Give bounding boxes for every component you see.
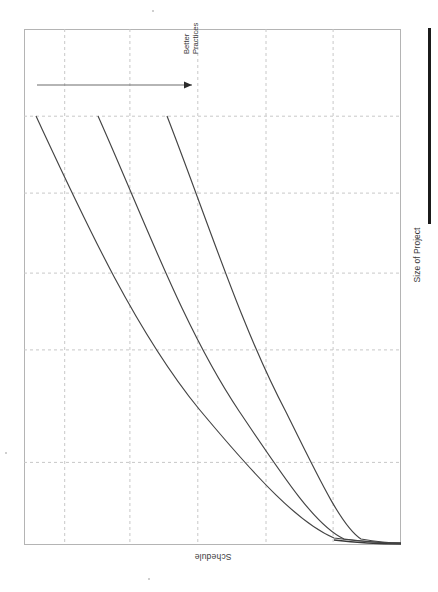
scan-artifact-speck [5,452,7,454]
annotation-line-1: Better [182,23,191,54]
annotation-better-practices-label: Better Practices [182,23,200,54]
page-edge-bar [428,28,431,224]
gridlines-vertical [65,29,333,545]
scan-artifact-speck [148,578,150,580]
axis-title-schedule: Schedule [168,552,258,562]
curve-worst-practices [36,116,401,543]
chart-canvas [24,29,401,545]
figure-rotated-chart: Schedule Size of Project Better Practice… [0,0,438,592]
gridlines-horizontal [24,116,401,462]
scanned-page: Schedule Size of Project Better Practice… [0,0,438,592]
curve-better-practices [167,116,401,543]
scan-artifact-speck [152,10,154,12]
better-practices-arrow [37,82,192,89]
axis-title-size-of-project: Size of Project [412,200,422,310]
curve-series [36,116,401,543]
annotation-line-2: Practices [191,23,200,54]
